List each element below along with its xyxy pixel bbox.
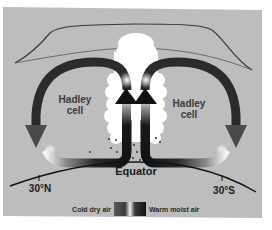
right-cell-label-line1: Hadley [173, 98, 206, 109]
right-cell-label-line2: cell [181, 109, 198, 120]
latitude-30n-label: 30°N [29, 183, 51, 194]
hadley-cell-diagram: Hadley cell Hadley cell Equator 30°N 30°… [0, 0, 272, 230]
latitude-30s-label: 30°S [213, 185, 235, 196]
left-cell-label-line2: cell [67, 105, 84, 116]
legend-warm-label: Warm moist air [149, 206, 200, 213]
legend-gradient-bar [114, 202, 146, 216]
left-cell-label-line1: Hadley [59, 94, 92, 105]
legend-cold-label: Cold dry air [72, 206, 111, 214]
equator-label: Equator [115, 165, 157, 177]
